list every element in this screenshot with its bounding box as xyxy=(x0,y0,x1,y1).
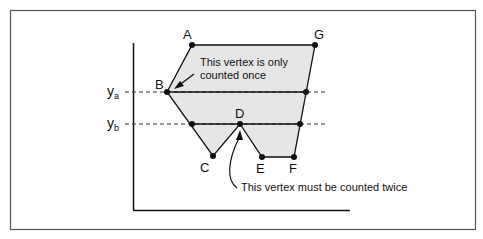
intersection-ya-right xyxy=(303,89,309,95)
vertex-f xyxy=(291,154,297,160)
annotation-once-line2: counted once xyxy=(200,69,266,81)
vertex-d xyxy=(237,121,243,127)
vertex-e xyxy=(259,154,265,160)
label-c: C xyxy=(200,160,209,175)
intersection-yb-left xyxy=(189,121,195,127)
annotation-once-line1: This vertex is only xyxy=(200,56,289,68)
annotation-twice: This vertex must be counted twice xyxy=(241,181,407,193)
label-d: D xyxy=(235,106,244,121)
scanline-diagram: A G B D C E F ya yb This vertex is only … xyxy=(0,0,483,239)
vertex-b xyxy=(164,89,170,95)
label-e: E xyxy=(256,161,265,176)
vertex-c xyxy=(210,153,216,159)
label-a: A xyxy=(183,27,192,42)
vertex-a xyxy=(189,42,195,48)
vertex-g xyxy=(312,42,318,48)
label-b: B xyxy=(155,77,164,92)
label-g: G xyxy=(314,27,324,42)
label-f: F xyxy=(289,161,297,176)
intersection-yb-right xyxy=(297,121,303,127)
